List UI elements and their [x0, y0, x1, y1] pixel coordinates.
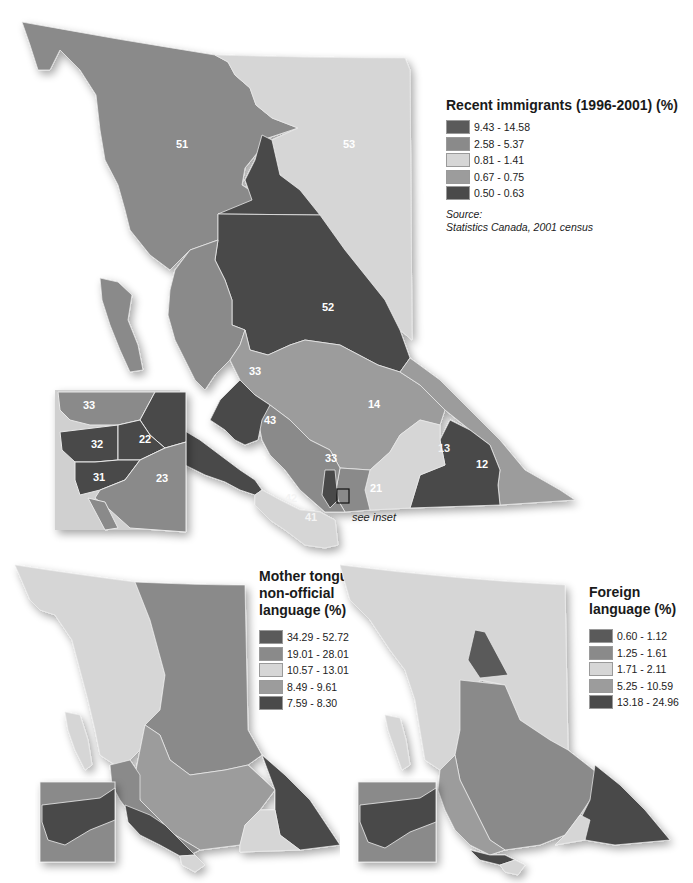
legend-title-line: Foreign [589, 584, 679, 601]
legend-swatch [446, 170, 470, 184]
label-43a: 43 [264, 414, 276, 426]
legend-label: 0.67 - 0.75 [474, 171, 524, 183]
legend-label: 0.81 - 1.41 [474, 154, 524, 166]
legend-swatch [589, 629, 613, 643]
legend-label: 0.60 - 1.12 [617, 630, 667, 642]
label-14: 14 [368, 398, 381, 410]
label-33b: 33 [325, 452, 337, 464]
legend-swatch [589, 695, 613, 709]
inset-32 [60, 425, 118, 462]
legend-swatch [259, 647, 283, 661]
label-53: 53 [343, 138, 355, 150]
label-21: 21 [370, 482, 382, 494]
legend-row: 2.58 - 5.37 [446, 136, 678, 153]
legend-swatch [589, 679, 613, 693]
source-note: Source: Statistics Canada, 2001 census [446, 208, 678, 234]
legend-title: Foreign language (%) [589, 584, 679, 618]
legend-label: 9.43 - 14.58 [474, 121, 530, 133]
legend-title-line: language (%) [589, 601, 679, 618]
legend-row: 13.18 - 24.96 [589, 694, 679, 711]
legend-swatch [259, 680, 283, 694]
legend-label: 1.25 - 1.61 [617, 647, 667, 659]
label-11: 11 [523, 441, 535, 453]
legend-swatch [259, 663, 283, 677]
legend-label: 13.18 - 24.96 [617, 696, 679, 708]
label-12: 12 [476, 458, 488, 470]
legend-swatch [259, 696, 283, 710]
label-33: 33 [249, 365, 261, 377]
fl-east-dark [580, 765, 670, 845]
mt-island-south [180, 855, 205, 872]
source-label: Source: [446, 208, 678, 221]
legend-swatch [589, 662, 613, 676]
legend-swatch [446, 137, 470, 151]
legend-recent-immigrants: Recent immigrants (1996-2001) (%) 9.43 -… [446, 97, 678, 234]
legend-row: 1.25 - 1.61 [589, 645, 679, 662]
inset-label-23: 23 [156, 472, 168, 484]
see-inset-label: see inset [352, 511, 396, 523]
legend-swatch [259, 630, 283, 644]
inset-label-31: 31 [93, 471, 105, 483]
fl-haida [385, 715, 410, 770]
source-text: Statistics Canada, 2001 census [446, 221, 678, 234]
main-map: 51 53 52 33 14 43 43 33 13 12 11 21 42 4… [0, 0, 693, 560]
legend-label: 1.71 - 2.11 [617, 663, 666, 675]
label-51: 51 [176, 138, 188, 150]
legend-label: 7.59 - 8.30 [287, 697, 337, 709]
legend-label: 0.50 - 0.63 [474, 187, 524, 199]
legend-swatch [446, 186, 470, 200]
inset-label-32: 32 [91, 438, 103, 450]
legend-swatch [589, 646, 613, 660]
label-42: 42 [285, 492, 297, 504]
legend-row: 1.71 - 2.11 [589, 661, 679, 678]
legend-label: 5.25 - 10.59 [617, 680, 673, 692]
label-43b: 43 [254, 454, 266, 466]
legend-foreign-language: Foreign language (%) 0.60 - 1.12 1.25 - … [589, 584, 679, 711]
legend-label: 8.49 - 9.61 [287, 681, 337, 693]
legend-row: 0.67 - 0.75 [446, 169, 678, 186]
legend-row: 0.81 - 1.41 [446, 152, 678, 169]
legend-label: 2.58 - 5.37 [474, 138, 524, 150]
legend-row: 9.43 - 14.58 [446, 119, 678, 136]
legend-row: 5.25 - 10.59 [589, 678, 679, 695]
mt-haida [65, 712, 92, 770]
legend-swatch [446, 120, 470, 134]
inset-label-33: 33 [83, 399, 95, 411]
label-13: 13 [438, 442, 450, 454]
legend-title: Recent immigrants (1996-2001) (%) [446, 97, 678, 114]
haida-gwaii [100, 278, 143, 372]
legend-row: 0.50 - 0.63 [446, 185, 678, 202]
legend-row: 0.60 - 1.12 [589, 628, 679, 645]
inset-label-22: 22 [139, 433, 151, 445]
label-52: 52 [322, 301, 334, 313]
legend-swatch [446, 153, 470, 167]
label-41: 41 [305, 511, 317, 523]
